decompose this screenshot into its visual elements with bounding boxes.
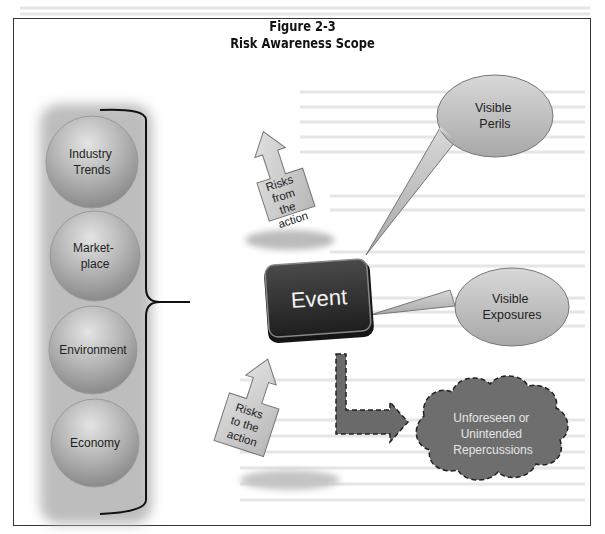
risks-to-action-arrow: Risks to the action xyxy=(214,351,293,456)
cloud-label: Unforeseen or Unintended Repercussions xyxy=(453,411,532,457)
factor-sphere-industry-trends: Industry Trends xyxy=(46,116,138,208)
factor-label: Economy xyxy=(70,436,120,450)
risks-from-action-arrow: Risks from the action xyxy=(242,124,318,233)
callout-visible-perils: Visible Perils xyxy=(437,75,553,157)
callout-tail-exposures xyxy=(370,290,455,315)
cloud-unforeseen-repercussions: Unforeseen or Unintended Repercussions xyxy=(416,376,568,480)
l-shaped-arrow xyxy=(336,354,408,442)
factor-sphere-marketplace: Market- place xyxy=(50,211,140,301)
event-box: Event xyxy=(263,259,374,344)
arrow-shadow xyxy=(245,230,335,250)
callout-tail-perils xyxy=(366,128,455,255)
event-label: Event xyxy=(290,284,348,313)
factor-sphere-environment: Environment xyxy=(49,306,137,394)
risk-awareness-diagram: Industry Trends Market- place Environmen… xyxy=(0,0,605,534)
factor-sphere-economy: Economy xyxy=(51,399,139,487)
factor-label: Environment xyxy=(59,343,127,357)
callout-visible-exposures: Visible Exposures xyxy=(455,268,569,346)
arrow-shadow xyxy=(240,470,340,490)
